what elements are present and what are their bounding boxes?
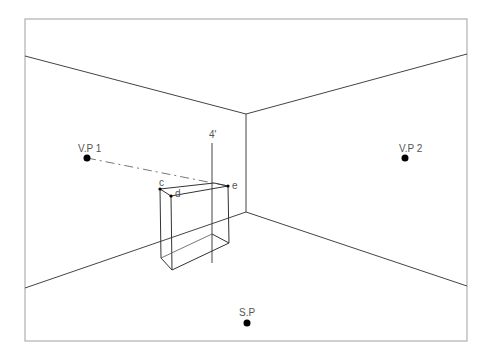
point-d-dot <box>169 194 172 197</box>
right-ceiling-line <box>246 54 467 114</box>
vp1-dot <box>84 155 91 162</box>
point-d-label: d <box>175 188 181 199</box>
vp2-label: V.P 2 <box>399 143 423 154</box>
box-edge-c <box>160 189 161 258</box>
point-e-label: e <box>232 180 238 191</box>
box-edge-e <box>228 186 229 243</box>
right-floor-line <box>246 212 467 286</box>
vp2-dot <box>402 155 409 162</box>
vp1-projection-dashed <box>87 158 228 186</box>
box-top-face <box>160 183 228 196</box>
vp1-label: V.P 1 <box>78 143 102 154</box>
left-ceiling-line <box>25 56 246 114</box>
height-mark-label: 4' <box>209 129 217 140</box>
sp-dot <box>244 320 251 327</box>
perspective-diagram: V.P 1 V.P 2 S.P 4' c d e <box>0 0 493 360</box>
box-edge-d <box>171 196 172 270</box>
left-floor-line <box>25 212 246 288</box>
sp-label: S.P <box>239 307 255 318</box>
point-c-label: c <box>159 177 164 188</box>
point-e-dot <box>226 184 229 187</box>
